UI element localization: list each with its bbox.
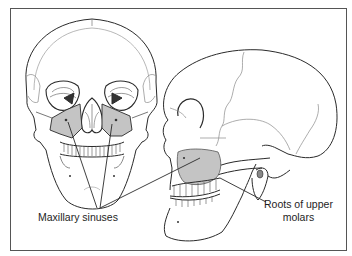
label-roots-of-upper-molars: Roots of upper molars [264, 198, 333, 224]
leader-lines [68, 122, 266, 208]
leader-left-sinus [68, 122, 97, 208]
leader-roots-upper-molars [220, 178, 266, 202]
frontal-skull [26, 19, 157, 209]
label-roots-line1: Roots of upper [264, 198, 333, 211]
label-roots-line2: molars [264, 211, 333, 224]
label-maxillary-sinuses: Maxillary sinuses [38, 211, 118, 224]
leader-right-sinus [100, 124, 112, 208]
